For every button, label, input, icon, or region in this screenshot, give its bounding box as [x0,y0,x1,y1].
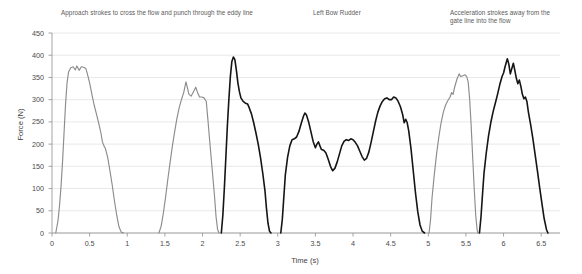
annotation-approach-strokes: Approach strokes to cross the flow and p… [61,9,311,17]
y-tick-100: 100 [14,184,44,193]
y-tick-250: 250 [14,117,44,126]
y-tick-50: 50 [14,206,44,215]
y-tick-200: 200 [14,140,44,149]
x-tick-6: 6 [489,239,519,248]
x-tick-2.5: 2.5 [225,239,255,248]
plot-area [0,0,582,274]
series-approach-stroke-2 [159,82,219,233]
x-tick-0.5: 0.5 [75,239,105,248]
y-tick-0: 0 [14,229,44,238]
y-tick-300: 300 [14,95,44,104]
force-time-chart: Approach strokes to cross the flow and p… [0,0,582,274]
y-tick-150: 150 [14,162,44,171]
axis-lines [52,33,560,233]
x-tick-0: 0 [37,239,67,248]
series-acceleration-stroke-black [479,59,547,233]
x-tick-6.5: 6.5 [526,239,556,248]
y-tick-450: 450 [14,29,44,38]
gridlines [52,33,560,233]
y-axis-tick-marks [49,33,53,233]
x-axis-title: Time (s) [250,256,360,265]
x-tick-3: 3 [263,239,293,248]
x-tick-3.5: 3.5 [300,239,330,248]
x-tick-5.5: 5.5 [451,239,481,248]
series-left-bow-rudder [281,97,425,233]
y-tick-350: 350 [14,73,44,82]
x-tick-2: 2 [188,239,218,248]
x-axis-tick-marks [52,233,541,237]
series-punch-through-eddy-line [221,57,271,233]
series-approach-stroke-1 [56,66,124,233]
x-tick-4: 4 [338,239,368,248]
y-tick-400: 400 [14,51,44,60]
series-acceleration-stroke-gray [429,74,478,233]
x-tick-1.5: 1.5 [150,239,180,248]
annotation-acceleration-strokes: Acceleration strokes away from the gate … [450,9,578,26]
x-tick-4.5: 4.5 [376,239,406,248]
data-series-layer [56,57,548,233]
x-tick-1: 1 [112,239,142,248]
x-tick-5: 5 [413,239,443,248]
annotation-left-bow-rudder: Left Bow Rudder [313,9,433,17]
